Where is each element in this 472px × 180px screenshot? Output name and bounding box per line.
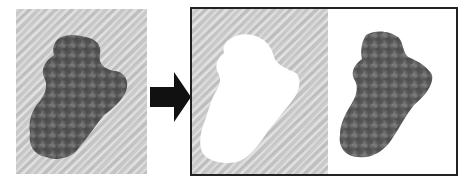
arrow-right-icon	[150, 72, 192, 122]
background-masked-image	[192, 9, 328, 174]
segmented-lesion-image	[328, 9, 456, 174]
segmented-lesion-shape	[328, 9, 456, 174]
lesion-mask-hole	[192, 9, 328, 174]
lesion-shape	[16, 9, 147, 174]
segmentation-result-box	[190, 7, 458, 176]
original-lesion-image	[16, 9, 147, 174]
